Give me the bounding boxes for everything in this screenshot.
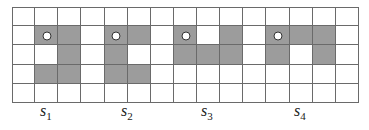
grid-cell [220, 26, 243, 45]
grid-cell [81, 84, 104, 103]
grid-cell [313, 26, 336, 45]
grid-cell [12, 84, 35, 103]
grid-cell [12, 7, 35, 26]
grid-cell [151, 65, 174, 84]
grid-cell [174, 65, 197, 84]
grid-cell [290, 45, 313, 64]
grid-cell [105, 45, 128, 64]
grid-cell [336, 65, 359, 84]
grid-cell [105, 65, 128, 84]
grid-cell [81, 65, 104, 84]
grid-cell [220, 7, 243, 26]
grid-cell [128, 65, 151, 84]
grid-cell [35, 65, 58, 84]
grid-cell [243, 26, 266, 45]
grid-cell [266, 45, 289, 64]
grid-cell [81, 45, 104, 64]
grid-cell [313, 84, 336, 103]
agent-circle-icon [42, 31, 51, 40]
agent-circle-icon [181, 31, 190, 40]
state-label-s4: s4 [294, 102, 306, 122]
grid-cell [58, 84, 81, 103]
grid-cell [128, 45, 151, 64]
grid-cell [243, 84, 266, 103]
grid-cell [290, 84, 313, 103]
grid-cell [174, 7, 197, 26]
grid-cell [128, 84, 151, 103]
grid-cell [197, 7, 220, 26]
grid-cell [197, 65, 220, 84]
grid-cell [313, 65, 336, 84]
grid-cell [58, 26, 81, 45]
grid-cell [151, 26, 174, 45]
state-grid [12, 7, 359, 103]
grid-cell [174, 84, 197, 103]
grid-cell [313, 45, 336, 64]
grid-cell [197, 45, 220, 64]
grid-cell [12, 65, 35, 84]
grid-cell [290, 26, 313, 45]
grid-cell [35, 84, 58, 103]
grid-cell [58, 45, 81, 64]
grid-cell [243, 65, 266, 84]
grid-cell [128, 7, 151, 26]
label-subscript: 2 [127, 110, 133, 122]
grid-cell [58, 65, 81, 84]
grid-cell [151, 84, 174, 103]
grid-cell [220, 45, 243, 64]
grid-cell [266, 7, 289, 26]
grid-cell [197, 84, 220, 103]
grid-cell [174, 45, 197, 64]
grid-cell [336, 26, 359, 45]
grid-cell [151, 45, 174, 64]
state-label-s1: s1 [40, 102, 52, 122]
grid-cell [58, 7, 81, 26]
grid-cell [336, 7, 359, 26]
grid-cell [243, 7, 266, 26]
grid-cell [220, 65, 243, 84]
grid-cell [220, 84, 243, 103]
grid-cell [105, 7, 128, 26]
grid-cell [35, 7, 58, 26]
state-label-s2: s2 [121, 102, 133, 122]
grid-cell [35, 45, 58, 64]
grid-cell [266, 84, 289, 103]
grid-cell [81, 7, 104, 26]
grid-cell [105, 84, 128, 103]
grid-cell [81, 26, 104, 45]
agent-circle-icon [112, 31, 121, 40]
grid-cell [266, 65, 289, 84]
agent-circle-icon [274, 31, 283, 40]
grid-cell [197, 26, 220, 45]
label-subscript: 1 [46, 110, 52, 122]
grid-cell [243, 45, 266, 64]
label-subscript: 3 [207, 110, 213, 122]
state-label-s3: s3 [201, 102, 213, 122]
grid-cell [290, 65, 313, 84]
grid-cell [336, 84, 359, 103]
grid-cell [12, 45, 35, 64]
grid-cell [128, 26, 151, 45]
grid-cell [290, 7, 313, 26]
grid-cell [313, 7, 336, 26]
label-subscript: 4 [300, 110, 306, 122]
grid-cell [12, 26, 35, 45]
grid-cell [336, 45, 359, 64]
grid-cell [151, 7, 174, 26]
